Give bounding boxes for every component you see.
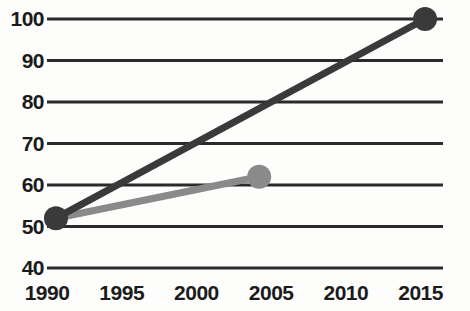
x-tick-label-1990: 1990 bbox=[12, 282, 82, 303]
y-tick-label-80: 80 bbox=[0, 91, 44, 112]
data-point-marker bbox=[413, 7, 437, 31]
series-line-dark-series bbox=[56, 19, 425, 218]
x-tick-label-2015: 2015 bbox=[386, 282, 456, 303]
series-lines-group bbox=[56, 19, 425, 218]
y-tick-label-40: 40 bbox=[0, 257, 44, 278]
y-tick-label-90: 90 bbox=[0, 50, 44, 71]
y-tick-label-50: 50 bbox=[0, 216, 44, 237]
x-tick-label-2005: 2005 bbox=[236, 282, 306, 303]
x-tick-label-1995: 1995 bbox=[87, 282, 157, 303]
data-point-marker bbox=[247, 165, 271, 189]
data-point-marker bbox=[44, 206, 68, 230]
x-tick-label-2000: 2000 bbox=[161, 282, 231, 303]
series-line-gray-series bbox=[56, 177, 259, 219]
chart-plot-area bbox=[0, 0, 470, 311]
x-tick-label-2010: 2010 bbox=[311, 282, 381, 303]
y-tick-label-70: 70 bbox=[0, 133, 44, 154]
y-tick-label-100: 100 bbox=[0, 8, 44, 29]
y-tick-label-60: 60 bbox=[0, 174, 44, 195]
gridlines-group bbox=[47, 19, 443, 268]
line-chart: 100908070605040 199019952000200520102015 bbox=[0, 0, 470, 311]
